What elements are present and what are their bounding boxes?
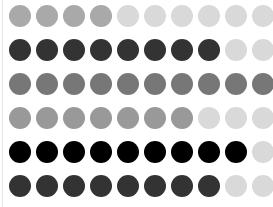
filled-dot [198,141,220,163]
filled-dot [36,107,58,129]
empty-dot [225,5,247,27]
filled-dot [144,73,166,95]
empty-dot [144,5,166,27]
filled-dot [171,39,193,61]
filled-dot [90,73,112,95]
filled-dot [9,5,31,27]
filled-dot [36,141,58,163]
filled-dot [171,107,193,129]
filled-dot [9,175,31,197]
filled-dot [63,73,85,95]
filled-dot [36,39,58,61]
filled-dot [90,175,112,197]
empty-dot [117,5,139,27]
filled-dot [144,107,166,129]
filled-dot [225,141,247,163]
filled-dot [171,175,193,197]
filled-dot [9,141,31,163]
filled-dot [171,141,193,163]
filled-dot [117,141,139,163]
filled-dot [63,107,85,129]
filled-dot [90,5,112,27]
empty-dot [225,39,247,61]
filled-dot [63,5,85,27]
filled-dot [198,175,220,197]
filled-dot [36,175,58,197]
filled-dot [9,39,31,61]
filled-dot [90,107,112,129]
filled-dot [9,73,31,95]
filled-dot [144,175,166,197]
filled-dot [117,73,139,95]
dot-grid [0,0,273,207]
empty-dot [252,175,273,197]
filled-dot [117,175,139,197]
empty-dot [198,107,220,129]
filled-dot [63,175,85,197]
filled-dot [63,141,85,163]
filled-dot [36,73,58,95]
filled-dot [63,39,85,61]
filled-dot [117,39,139,61]
filled-dot [225,73,247,95]
filled-dot [90,141,112,163]
empty-dot [171,5,193,27]
empty-dot [252,5,273,27]
empty-dot [252,39,273,61]
empty-dot [225,107,247,129]
filled-dot [198,73,220,95]
filled-dot [90,39,112,61]
filled-dot [198,39,220,61]
filled-dot [144,141,166,163]
filled-dot [252,73,273,95]
filled-dot [117,107,139,129]
empty-dot [252,107,273,129]
empty-dot [198,5,220,27]
filled-dot [171,73,193,95]
empty-dot [225,175,247,197]
empty-dot [252,141,273,163]
filled-dot [36,5,58,27]
filled-dot [9,107,31,129]
filled-dot [144,39,166,61]
